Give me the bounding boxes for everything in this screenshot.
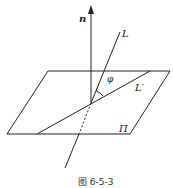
arrowhead-icon	[88, 5, 94, 14]
diagram-canvas: n L φ L′ Π 图 6-5-3	[0, 0, 173, 188]
label-n: n	[79, 13, 86, 24]
label-plane-pi: Π	[118, 123, 128, 134]
figure-caption: 图 6-5-3	[78, 177, 114, 187]
line-l-lower	[65, 134, 79, 168]
label-phi: φ	[107, 74, 114, 84]
label-l: L	[121, 28, 129, 39]
angle-arc	[96, 91, 103, 96]
line-l-upper	[91, 32, 120, 103]
projection-line-l-prime	[37, 71, 150, 134]
label-l-prime: L′	[134, 82, 145, 93]
plane-pi	[7, 71, 170, 134]
